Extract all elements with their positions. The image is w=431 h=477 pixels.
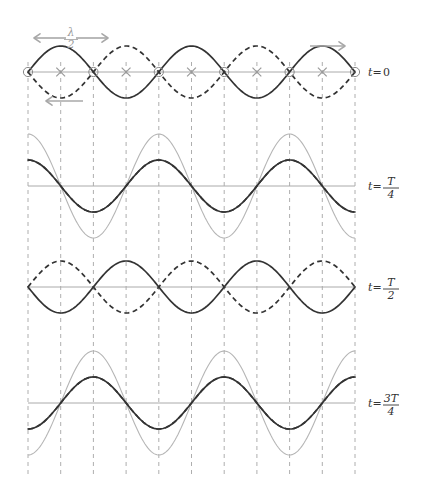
svg-text:0: 0: [383, 66, 390, 79]
time-label-0: t=0: [368, 66, 390, 79]
svg-text:t=: t=: [368, 66, 382, 79]
svg-text:T: T: [387, 276, 396, 289]
standing-wave-figure: λ2t=0t=T4t=T2t=3T4: [0, 0, 431, 477]
svg-text:t=: t=: [368, 281, 382, 294]
svg-text:4: 4: [387, 405, 395, 418]
svg-text:t=: t=: [368, 180, 382, 193]
svg-text:4: 4: [387, 188, 395, 201]
time-label-2: t=T2: [368, 276, 399, 302]
rightward-direction-arrow: [310, 42, 345, 50]
time-label-1: t=T4: [368, 175, 399, 201]
svg-text:2: 2: [67, 38, 75, 51]
svg-text:2: 2: [387, 289, 395, 302]
figure-canvas: λ2t=0t=T4t=T2t=3T4: [0, 0, 431, 477]
time-label-3: t=3T4: [368, 392, 400, 418]
svg-text:3T: 3T: [384, 392, 400, 405]
lambda-left-arrow: [34, 34, 66, 42]
lambda-right-arrow: [76, 34, 108, 42]
svg-text:T: T: [387, 175, 396, 188]
svg-text:t=: t=: [368, 397, 382, 410]
